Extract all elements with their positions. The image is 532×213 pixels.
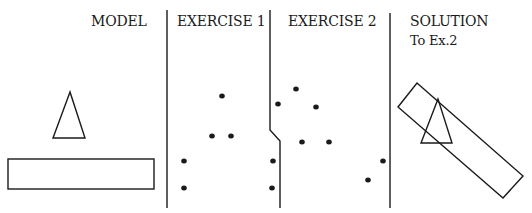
dot [228,134,234,139]
dot [219,94,225,99]
dot [181,159,187,164]
dot [275,102,281,107]
dot [299,140,305,145]
dot [313,105,319,110]
model-shapes [8,92,154,189]
dot [293,87,299,92]
dot [269,186,275,191]
exercise-2-dots [275,87,386,183]
dot [209,134,215,139]
dot [326,140,332,145]
dot [181,186,187,191]
exercise-1-dots [181,94,276,191]
solution-shapes [398,83,523,198]
panel-divider [270,10,280,208]
dot [270,159,276,164]
panel-dividers [167,10,390,208]
solution-rectangle [398,83,523,198]
diagram-canvas [0,0,532,213]
solution-triangle [421,99,452,143]
model-triangle [53,92,85,138]
dot [365,178,371,183]
model-rectangle [8,159,154,189]
dot [380,159,386,164]
